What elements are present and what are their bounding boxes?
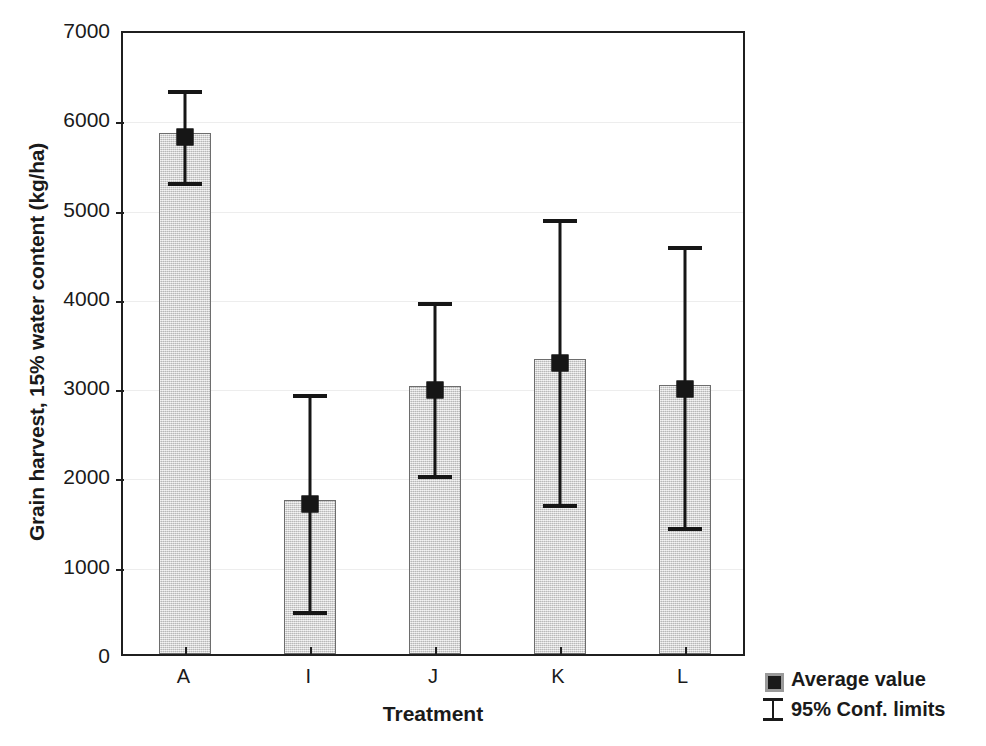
- gridline: [123, 212, 743, 213]
- x-axis-title: Treatment: [121, 702, 745, 726]
- legend-label: 95% Conf. limits: [791, 698, 945, 721]
- y-tick-label: 3000: [38, 376, 110, 400]
- x-tick-label: L: [653, 665, 713, 688]
- mean-value-marker: [676, 381, 693, 398]
- y-tick-label: 5000: [38, 198, 110, 222]
- x-tick-mark: [435, 647, 437, 654]
- ibeam-bot-glyph: [763, 718, 783, 721]
- legend-label: Average value: [791, 668, 926, 691]
- y-tick-label: 4000: [38, 287, 110, 311]
- bar: [159, 133, 211, 654]
- plot-area: [121, 31, 745, 656]
- y-tick-label: 2000: [38, 465, 110, 489]
- error-bar-cap-upper: [168, 90, 202, 94]
- gridline: [123, 122, 743, 123]
- error-bar-cap-upper: [293, 394, 327, 398]
- square-marker-icon: [760, 666, 786, 692]
- error-bar-cap-upper: [418, 302, 452, 306]
- x-tick-label: K: [528, 665, 588, 688]
- mean-value-marker: [551, 355, 568, 372]
- y-tick-mark: [116, 301, 124, 303]
- error-bar-cap-lower: [168, 182, 202, 186]
- error-bar-cap-lower: [293, 611, 327, 615]
- x-tick-mark: [185, 647, 187, 654]
- y-tick-label: 1000: [38, 555, 110, 579]
- bar-chart: Grain harvest, 15% water content (kg/ha)…: [0, 0, 986, 746]
- y-tick-mark: [116, 390, 124, 392]
- y-tick-label: 7000: [38, 19, 110, 43]
- chart-legend: Average value95% Conf. limits: [760, 664, 986, 724]
- error-bar-cap-lower: [668, 527, 702, 531]
- y-tick-label: 0: [38, 644, 110, 668]
- y-tick-label: 6000: [38, 108, 110, 132]
- i-beam-errorbar-icon: [760, 696, 786, 722]
- y-tick-mark: [116, 212, 124, 214]
- x-tick-mark: [685, 647, 687, 654]
- y-axis-tick-labels: 01000200030004000500060007000: [38, 0, 110, 746]
- x-tick-label: J: [403, 665, 463, 688]
- error-bar-cap-upper: [668, 246, 702, 250]
- x-tick-mark: [560, 647, 562, 654]
- x-axis-tick-labels: AIJKL: [121, 665, 745, 695]
- y-tick-mark: [116, 479, 124, 481]
- y-tick-mark: [116, 569, 124, 571]
- x-tick-label: I: [278, 665, 338, 688]
- ibeam-stem-glyph: [772, 699, 774, 720]
- x-tick-label: A: [153, 665, 213, 688]
- legend-item: Average value: [760, 664, 986, 694]
- error-bar-cap-lower: [543, 504, 577, 508]
- mean-value-marker: [427, 382, 444, 399]
- error-bar-cap-lower: [418, 475, 452, 479]
- mean-value-marker: [302, 495, 319, 512]
- mean-value-marker: [177, 129, 194, 146]
- square-marker-glyph: [765, 673, 784, 692]
- error-bar-cap-upper: [543, 219, 577, 223]
- y-tick-mark: [116, 122, 124, 124]
- x-tick-mark: [310, 647, 312, 654]
- legend-item: 95% Conf. limits: [760, 694, 986, 724]
